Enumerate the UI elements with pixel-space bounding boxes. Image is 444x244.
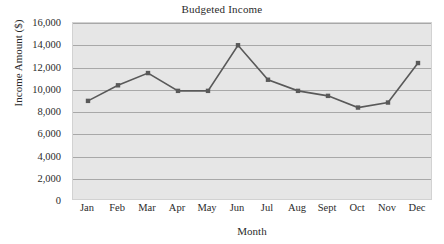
data-point-marker bbox=[236, 43, 240, 47]
x-tick-label: Jan bbox=[80, 202, 94, 213]
y-tick-label: 12,000 bbox=[32, 61, 61, 72]
data-point-marker bbox=[326, 94, 330, 98]
x-tick-label: Apr bbox=[169, 202, 185, 213]
data-point-marker bbox=[266, 78, 270, 82]
data-point-marker bbox=[206, 89, 210, 93]
x-tick-label: May bbox=[197, 202, 216, 213]
x-tick-label: Mar bbox=[138, 202, 156, 213]
y-tick-label: 14,000 bbox=[32, 39, 61, 50]
data-point-marker bbox=[86, 99, 90, 103]
y-tick-label: 6,000 bbox=[37, 128, 61, 139]
data-point-marker bbox=[386, 100, 390, 104]
x-axis-tick-labels: JanFebMarAprMayJunJulAugSeptOctNovDec bbox=[72, 202, 432, 220]
data-point-marker bbox=[176, 89, 180, 93]
data-series-line bbox=[73, 23, 433, 201]
y-tick-label: 16,000 bbox=[32, 17, 61, 28]
x-tick-label: Aug bbox=[288, 202, 306, 213]
data-point-marker bbox=[296, 89, 300, 93]
x-tick-label: Dec bbox=[409, 202, 426, 213]
y-tick-label: 10,000 bbox=[32, 83, 61, 94]
x-axis-title: Month bbox=[72, 225, 432, 237]
x-tick-label: Feb bbox=[109, 202, 125, 213]
y-tick-label: 8,000 bbox=[37, 106, 61, 117]
chart-title: Budgeted Income bbox=[0, 3, 444, 15]
data-point-marker bbox=[116, 83, 120, 87]
x-tick-label: Nov bbox=[378, 202, 396, 213]
data-point-marker bbox=[146, 71, 150, 75]
x-tick-label: Jul bbox=[261, 202, 273, 213]
x-tick-label: Jun bbox=[230, 202, 245, 213]
chart-container: Budgeted Income Income Amount ($) 16,000… bbox=[0, 0, 444, 244]
y-axis-tick-labels: 16,00014,00012,00010,0008,0006,0004,0002… bbox=[0, 22, 66, 200]
data-point-marker bbox=[356, 105, 360, 109]
plot-area bbox=[72, 22, 432, 200]
series-line bbox=[88, 45, 418, 107]
y-tick-label: 2,000 bbox=[37, 172, 61, 183]
data-point-marker bbox=[416, 61, 420, 65]
x-tick-label: Oct bbox=[349, 202, 364, 213]
x-tick-label: Sept bbox=[318, 202, 337, 213]
y-tick-label: 0 bbox=[56, 195, 61, 206]
y-tick-label: 4,000 bbox=[37, 150, 61, 161]
